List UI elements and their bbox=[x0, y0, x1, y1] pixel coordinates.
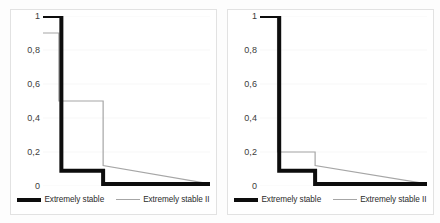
y-axis-tick-label: 0,4 bbox=[244, 113, 257, 123]
y-axis-tick-label: 0,8 bbox=[27, 45, 40, 55]
plot-canvas-left bbox=[43, 16, 210, 186]
series-line bbox=[260, 16, 427, 184]
y-axis-tick-label: 0,6 bbox=[27, 79, 40, 89]
chart-panel-left: 10,80,60,40,20 Extremely stable Extremel… bbox=[10, 9, 217, 215]
chart-svg-left bbox=[43, 16, 210, 186]
plot-area-right: 10,80,60,40,20 bbox=[228, 10, 433, 188]
y-axis-tick-label: 1 bbox=[35, 11, 40, 21]
legend-label-extremely-stable-ii: Extremely stable II bbox=[143, 195, 209, 204]
series-line bbox=[260, 16, 427, 184]
legend-entry-extremely-stable: Extremely stable bbox=[234, 195, 321, 204]
chart-panel-right: 10,80,60,40,20 Extremely stable Extremel… bbox=[227, 9, 434, 215]
y-axis-left: 10,80,60,40,20 bbox=[13, 16, 43, 186]
plot-canvas-right bbox=[260, 16, 427, 186]
y-axis-tick-label: 0,4 bbox=[27, 113, 40, 123]
legend-label-extremely-stable: Extremely stable bbox=[261, 195, 321, 204]
series-line bbox=[43, 33, 210, 184]
y-axis-tick-label: 0 bbox=[35, 181, 40, 191]
y-axis-right: 10,80,60,40,20 bbox=[230, 16, 260, 186]
legend-entry-extremely-stable-ii: Extremely stable II bbox=[116, 195, 209, 204]
legend-swatch-extremely-stable-ii bbox=[333, 199, 357, 200]
legend-swatch-extremely-stable bbox=[17, 198, 41, 202]
y-axis-tick-label: 1 bbox=[252, 11, 257, 21]
figure-container: 10,80,60,40,20 Extremely stable Extremel… bbox=[0, 0, 440, 223]
legend-label-extremely-stable: Extremely stable bbox=[44, 195, 104, 204]
y-axis-tick-label: 0 bbox=[252, 181, 257, 191]
series-line bbox=[43, 16, 210, 184]
legend-entry-extremely-stable: Extremely stable bbox=[17, 195, 104, 204]
legend-right: Extremely stable Extremely stable II bbox=[228, 188, 433, 214]
legend-swatch-extremely-stable bbox=[234, 198, 258, 202]
y-axis-tick-label: 0,6 bbox=[244, 79, 257, 89]
legend-left: Extremely stable Extremely stable II bbox=[11, 188, 216, 214]
legend-label-extremely-stable-ii: Extremely stable II bbox=[360, 195, 426, 204]
y-axis-tick-label: 0,2 bbox=[244, 147, 257, 157]
chart-svg-right bbox=[260, 16, 427, 186]
y-axis-tick-label: 0,8 bbox=[244, 45, 257, 55]
legend-entry-extremely-stable-ii: Extremely stable II bbox=[333, 195, 426, 204]
y-axis-tick-label: 0,2 bbox=[27, 147, 40, 157]
plot-area-left: 10,80,60,40,20 bbox=[11, 10, 216, 188]
legend-swatch-extremely-stable-ii bbox=[116, 199, 140, 200]
